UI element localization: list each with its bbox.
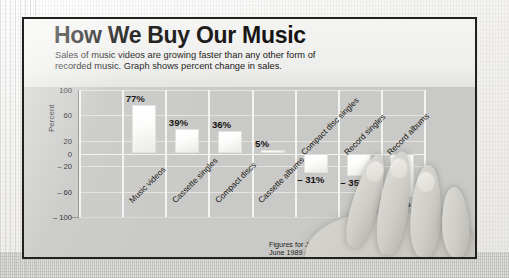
bar-value-label: 5%	[255, 138, 269, 149]
gridline-x	[122, 90, 124, 217]
bar	[175, 129, 199, 154]
bar-value-label: – 31%	[297, 174, 324, 185]
bar	[261, 150, 285, 153]
bar-value-label: – 68%	[383, 198, 410, 209]
bar-chart-plot: 10060200– 20– 60– 100Percent77%Music vid…	[79, 90, 424, 217]
gridline-x	[165, 90, 167, 217]
bar-value-label: 39%	[169, 117, 188, 128]
bar	[347, 154, 371, 176]
gridline-x	[424, 90, 426, 217]
finger	[440, 186, 471, 257]
bar	[218, 131, 242, 154]
bar-value-label: 77%	[126, 93, 145, 104]
gridline-y	[79, 217, 424, 218]
gridline-x	[79, 90, 81, 217]
page-title: How We Buy Our Music	[54, 22, 306, 49]
bar	[390, 154, 414, 197]
y-axis-tick-label: 0	[32, 149, 72, 158]
x-axis-category-label: Music videos	[127, 165, 167, 205]
y-axis-tick-label: – 60	[32, 187, 72, 196]
x-axis-category-label: Cassette singles	[170, 156, 219, 205]
bar	[132, 105, 156, 154]
y-axis-tick-label: 20	[32, 136, 72, 145]
y-axis-tick-label: – 20	[32, 162, 72, 171]
subtitle-text: Sales of music videos are growing faster…	[55, 50, 345, 71]
gridline-x	[295, 90, 297, 217]
infographic-panel: How We Buy Our Music Sales of music vide…	[22, 17, 477, 259]
chart-footnote: Figures for January through June 1989 an…	[269, 241, 357, 258]
footnote-line-2: June 1989 and 1990	[269, 249, 357, 257]
bar-value-label: – 35%	[340, 177, 367, 188]
bar-value-label: 36%	[212, 119, 231, 130]
y-axis-title: Percent	[47, 104, 56, 132]
gridline-x	[208, 90, 210, 217]
gridline-x	[252, 90, 254, 217]
bar	[304, 154, 328, 174]
y-axis-tick-label: – 100	[32, 213, 72, 222]
y-axis-tick-label: 100	[32, 86, 72, 95]
